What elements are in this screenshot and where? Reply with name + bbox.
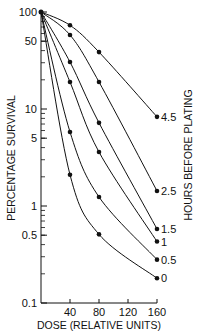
data-point	[155, 189, 160, 194]
axes: 0.10.51510501004080120160	[19, 6, 167, 318]
data-point	[97, 50, 102, 55]
data-point	[97, 195, 102, 200]
data-point	[155, 227, 160, 232]
data-point	[97, 121, 102, 126]
y-axis-label: PERCENTAGE SURVIVAL	[5, 95, 17, 221]
series-label: 2.5	[161, 185, 176, 197]
curve-4.5	[41, 12, 157, 117]
series-label: 0.5	[161, 254, 176, 266]
right-axis-label: HOURS BEFORE PLATING	[182, 89, 194, 220]
series-label: 1.5	[161, 223, 176, 235]
data-point	[68, 23, 73, 28]
survival-chart: 0.10.51510501004080120160 4.52.51.510.50…	[0, 0, 201, 336]
y-tick-label: 10	[25, 103, 37, 115]
x-tick-label: 120	[119, 306, 137, 318]
series-label: 0	[161, 272, 167, 284]
y-tick-label: 1	[31, 200, 37, 212]
y-tick-label: 100	[19, 6, 37, 18]
data-point	[97, 80, 102, 85]
data-point	[68, 33, 73, 38]
series-label: 1	[161, 236, 167, 248]
data-point	[155, 239, 160, 244]
y-tick-label: 0.5	[22, 229, 37, 241]
data-point	[97, 232, 102, 237]
data-point	[68, 60, 73, 65]
data-point	[68, 172, 73, 177]
curve-2.5	[41, 12, 157, 191]
survival-curves: 4.52.51.510.50	[39, 10, 177, 285]
y-tick-label: 50	[25, 35, 37, 47]
data-point	[97, 150, 102, 155]
origin-point	[39, 10, 44, 15]
x-tick-label: 160	[148, 306, 166, 318]
curve-0.5	[41, 12, 157, 260]
data-point	[68, 80, 73, 85]
y-tick-label: 0.1	[22, 297, 37, 309]
data-point	[155, 276, 160, 281]
x-tick-label: 40	[64, 306, 76, 318]
series-label: 4.5	[161, 111, 176, 123]
y-tick-label: 5	[31, 132, 37, 144]
data-point	[155, 115, 160, 120]
x-axis-label: DOSE (RELATIVE UNITS)	[37, 319, 161, 331]
data-point	[68, 130, 73, 135]
data-point	[155, 257, 160, 262]
curve-1	[41, 12, 157, 242]
x-tick-label: 80	[93, 306, 105, 318]
